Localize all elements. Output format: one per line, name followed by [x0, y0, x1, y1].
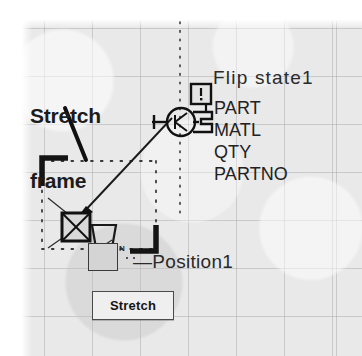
- stretch-frame-annotation: Stretch frame: [30, 62, 101, 235]
- diagram-text-layer: Stretch frame Flip state1 PART MATL QTY …: [0, 0, 362, 356]
- stretch-frame-annotation-line1: Stretch: [30, 105, 101, 127]
- attribute-item-partno: PARTNO: [214, 164, 288, 186]
- attribute-item-matl: MATL: [214, 120, 288, 142]
- flip-state-title: Flip state1: [213, 68, 314, 87]
- stretch-button-label: Stretch: [110, 298, 156, 313]
- stretch-button[interactable]: Stretch: [92, 291, 174, 320]
- attribute-item-part: PART: [214, 98, 288, 120]
- stretch-frame-annotation-line2: frame: [30, 170, 101, 192]
- attribute-item-qty: QTY: [214, 142, 288, 164]
- attribute-list: PART MATL QTY PARTNO: [214, 98, 288, 186]
- position-annotation: —Position1: [133, 252, 233, 271]
- screenshot-root: N Stretch frame Flip state1 PART MATL QT…: [0, 0, 362, 356]
